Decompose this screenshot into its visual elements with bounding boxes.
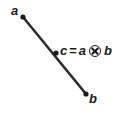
label-formula-c: c = a b (60, 44, 112, 57)
point-b-marker (83, 91, 88, 96)
point-a-marker (20, 14, 25, 19)
formula-term-b: b (104, 44, 112, 57)
formula-equals-sign: = (69, 44, 77, 57)
label-vector-a: a (11, 4, 18, 17)
label-vector-b: b (89, 92, 97, 105)
formula-term-a: a (79, 44, 86, 57)
formula-term-c: c (60, 44, 67, 57)
tensor-product-icon (89, 45, 101, 57)
diagram-canvas: a b c = a b (0, 0, 117, 118)
point-c-marker (53, 50, 58, 55)
